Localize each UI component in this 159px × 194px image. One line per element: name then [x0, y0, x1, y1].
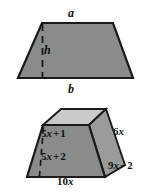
- label-prism-right-lower-constant: 2: [127, 159, 133, 171]
- trapezoid-figure: [18, 23, 133, 78]
- label-prism-front-upper-constant: 1: [60, 127, 66, 139]
- label-prism-front-lower-constant: 2: [60, 150, 66, 162]
- label-prism-front-upper: 5x+1: [41, 128, 66, 139]
- label-prism-front-lower: 5x+2: [41, 151, 66, 162]
- geometry-figures-svg: [0, 0, 159, 194]
- label-trapezoid-bottom-side: b: [68, 83, 74, 95]
- label-prism-right-lower: 9x−2: [108, 160, 133, 171]
- geometry-figure-panel: a h b 5x+1 5x+2 6x 9x−2 10x: [0, 0, 159, 194]
- label-trapezoid-top-side: a: [68, 7, 74, 19]
- label-prism-bottom-variable: x: [68, 175, 74, 187]
- label-prism-bottom-coefficient: 10: [57, 175, 68, 187]
- label-trapezoid-height: h: [44, 44, 51, 56]
- label-prism-right-upper-variable: x: [119, 125, 125, 137]
- label-prism-right-upper: 6x: [113, 126, 124, 137]
- trapezoid-face: [18, 23, 133, 78]
- label-prism-bottom: 10x: [57, 176, 74, 187]
